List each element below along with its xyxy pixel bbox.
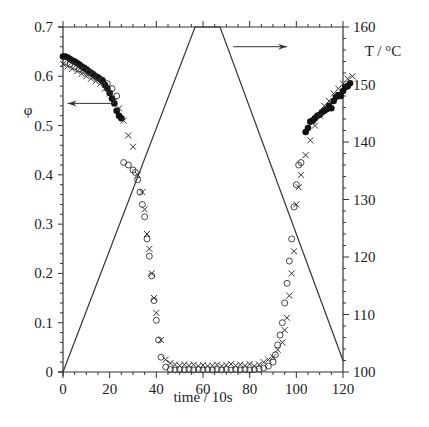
y-tick-label: 0.2 [34,265,53,281]
open-circle-marker [144,236,150,242]
cross-marker [153,310,159,316]
y2-tick-label: 100 [353,364,376,380]
y-tick-label: 0.3 [34,216,53,232]
filled-circle-marker [328,105,335,112]
cross-marker [130,144,136,150]
y2-tick-label: 140 [353,134,376,150]
data-points [60,53,356,373]
x-tick-label: 40 [149,381,164,397]
cross-marker [291,248,297,254]
y-tick-label: 0.4 [34,167,53,183]
phi-temperature-chart: 02040608010012000.10.20.30.40.50.60.7100… [0,0,429,427]
cross-marker [228,361,234,367]
open-circle-marker [277,332,283,338]
open-circle-marker [142,214,148,220]
y2-tick-label: 150 [353,77,376,93]
y-tick-label: 0 [46,364,54,380]
cross-marker [298,172,304,178]
y-tick-label: 0.6 [34,68,53,84]
x-tick-label: 100 [285,381,308,397]
cross-marker [146,246,152,252]
x-tick-label: 80 [242,381,257,397]
x-axis-title: time / 10s [173,389,232,405]
y-tick-label: 0.1 [34,315,53,331]
open-circle-marker [282,300,288,306]
cross-marker [312,123,318,129]
cross-marker [307,137,313,143]
open-circle-marker [125,162,131,168]
open-circle-marker [279,320,285,326]
y2-tick-label: 130 [353,192,376,208]
y-tick-label: 0.7 [34,19,53,35]
cross-marker [286,293,292,299]
open-circle-marker [153,317,159,323]
y2-tick-label: 120 [353,249,376,265]
open-circle-marker [289,236,295,242]
x-tick-label: 20 [102,381,117,397]
x-tick-label: 120 [332,381,355,397]
y2-tick-label: 160 [353,19,376,35]
y2-axis-title: T / °C [365,43,402,59]
cross-marker [282,327,288,333]
open-circle-marker [146,253,152,259]
open-circle-marker [286,258,292,264]
y-axis-title: φ [24,102,33,118]
y-tick-label: 0.5 [34,118,53,134]
cross-marker [289,270,295,276]
x-tick-label: 0 [59,381,67,397]
filled-circle-marker [305,125,312,132]
cross-marker [284,315,290,321]
cross-marker [303,152,309,158]
cross-marker [125,132,131,138]
open-circle-marker [284,280,290,286]
y2-tick-label: 110 [353,307,375,323]
